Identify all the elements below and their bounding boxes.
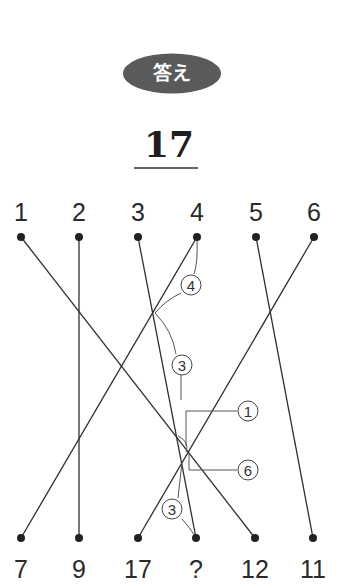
top-labels: 1 2 3 4 5 6 <box>14 198 321 226</box>
answer-value: 17 <box>144 123 194 165</box>
dot-top-4 <box>193 233 201 241</box>
bottom-label-17: 17 <box>124 555 152 583</box>
bottom-label-9: 9 <box>72 555 86 583</box>
line-1-to-12 <box>21 237 255 538</box>
dot-top-6 <box>310 233 318 241</box>
dot-top-3 <box>134 233 142 241</box>
bottom-label-7: 7 <box>14 555 28 583</box>
circled-4: 4 <box>181 275 201 295</box>
dot-bottom-q <box>192 534 200 542</box>
line-5-to-11 <box>256 237 313 538</box>
dot-top-2 <box>75 233 83 241</box>
bottom-label-12: 12 <box>241 555 269 583</box>
annot-3-upper-arc <box>155 313 176 354</box>
circled-6: 6 <box>238 460 258 480</box>
top-label-6: 6 <box>307 198 321 226</box>
connection-lines <box>21 237 314 538</box>
circled-4-label: 4 <box>187 277 195 294</box>
top-label-2: 2 <box>72 198 86 226</box>
answer-badge: 答え <box>123 54 221 94</box>
dot-bottom-17 <box>134 534 142 542</box>
puzzle-diagram: 答え 17 1 2 3 4 5 6 <box>0 0 350 585</box>
bracket-1 <box>186 411 237 446</box>
dot-bottom-11 <box>309 534 317 542</box>
dot-bottom-9 <box>75 534 83 542</box>
top-label-5: 5 <box>249 198 263 226</box>
dot-top-5 <box>252 233 260 241</box>
circled-1-label: 1 <box>244 403 252 420</box>
circled-3-upper: 3 <box>172 355 192 375</box>
circled-annotations: 4 3 1 6 3 <box>162 275 258 519</box>
circled-3-lower: 3 <box>162 499 182 519</box>
circled-3-lower-label: 3 <box>168 501 176 518</box>
annot-4-upper <box>194 241 197 274</box>
circled-6-label: 6 <box>244 462 252 479</box>
line-4-to-7 <box>21 237 197 538</box>
bottom-dots <box>17 534 317 542</box>
top-label-3: 3 <box>131 198 145 226</box>
top-dots <box>17 233 318 241</box>
dot-bottom-7 <box>17 534 25 542</box>
dot-top-1 <box>17 233 25 241</box>
dot-bottom-12 <box>251 534 259 542</box>
bottom-label-11: 11 <box>300 555 326 583</box>
bottom-labels: 7 9 17 ? 12 11 <box>14 555 326 583</box>
circled-3-upper-label: 3 <box>178 357 186 374</box>
line-6-to-17 <box>138 237 314 538</box>
top-label-1: 1 <box>14 198 28 226</box>
circled-1: 1 <box>238 401 258 421</box>
bottom-label-q: ? <box>189 555 203 583</box>
badge-label: 答え <box>153 62 191 84</box>
top-label-4: 4 <box>190 198 204 226</box>
